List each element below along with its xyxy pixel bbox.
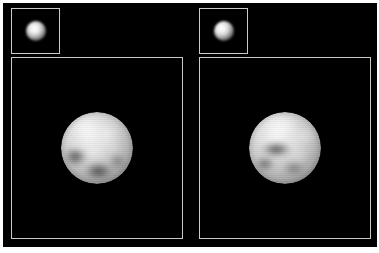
unresolved-bright-disk-left bbox=[26, 21, 46, 41]
raw-observation-inset-left bbox=[11, 8, 60, 54]
panel-right bbox=[191, 3, 377, 247]
raw-observation-inset-right bbox=[199, 8, 248, 54]
disk-limb-darkening bbox=[249, 112, 321, 184]
disk-limb-darkening bbox=[61, 112, 133, 184]
unresolved-bright-disk-right bbox=[214, 21, 234, 41]
mottled-planetary-disk bbox=[61, 112, 133, 184]
figure-plate bbox=[3, 3, 376, 247]
panel-left bbox=[3, 3, 189, 247]
banded-planetary-disk bbox=[249, 112, 321, 184]
figure-root bbox=[0, 0, 379, 253]
reconstructed-disk-view-right bbox=[199, 57, 371, 239]
reconstructed-disk-view-left bbox=[11, 57, 183, 239]
